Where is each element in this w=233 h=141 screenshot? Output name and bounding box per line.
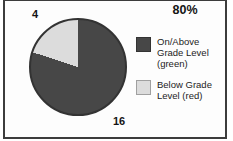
chart-stage: 80% 4 16 On/Above Grade Level (green) Be… bbox=[0, 0, 233, 141]
legend: On/Above Grade Level (green) Below Grade… bbox=[136, 36, 228, 101]
legend-swatch-on-above-grade-icon bbox=[136, 37, 151, 52]
pie-chart bbox=[29, 18, 127, 116]
percent-title: 80% bbox=[167, 3, 203, 17]
below-grade-value-label: 4 bbox=[32, 8, 38, 20]
legend-swatch-below-grade-icon bbox=[136, 80, 151, 95]
legend-item-below-grade: Below Grade Level (red) bbox=[136, 79, 228, 101]
legend-label-below-grade: Below Grade Level (red) bbox=[157, 79, 227, 101]
on-above-grade-value-label: 16 bbox=[113, 115, 125, 127]
legend-item-on-above-grade: On/Above Grade Level (green) bbox=[136, 36, 228, 69]
legend-label-on-above-grade: On/Above Grade Level (green) bbox=[157, 36, 227, 69]
